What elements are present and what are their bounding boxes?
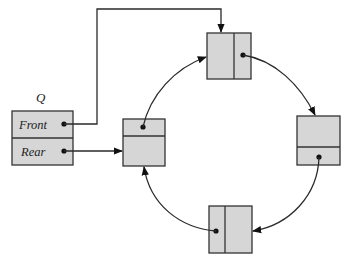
left-node	[123, 119, 165, 166]
link-left-to-top	[143, 57, 206, 127]
diagram-canvas: Q Front Rear	[0, 0, 350, 265]
top-node	[207, 33, 251, 79]
front-pointer-arrow	[64, 9, 221, 124]
front-field-label: Front	[18, 118, 48, 132]
queue-name-label: Q	[36, 90, 46, 105]
link-bottom-to-left	[144, 167, 216, 231]
queue-record: Front Rear	[12, 111, 73, 165]
bottom-node	[209, 206, 252, 253]
link-top-to-right	[243, 55, 315, 115]
link-right-to-bottom	[253, 157, 319, 231]
rear-field-label: Rear	[20, 145, 45, 159]
